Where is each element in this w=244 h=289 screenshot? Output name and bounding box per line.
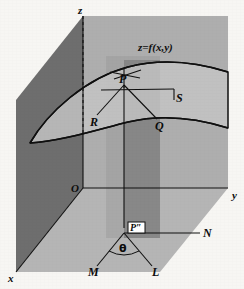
- point-label-p: P: [119, 72, 127, 86]
- point-label-l: L: [151, 265, 159, 279]
- axis-label-x: x: [7, 272, 14, 284]
- diagram-svg: z y x O z=f(x,y) P Q R S P″ M N L θ: [0, 0, 244, 289]
- point-label-s: S: [176, 91, 183, 105]
- figure-container: z y x O z=f(x,y) P Q R S P″ M N L θ: [0, 0, 244, 289]
- point-label-n: N: [202, 226, 213, 240]
- point-label-m: M: [87, 265, 99, 279]
- point-label-q: Q: [155, 119, 164, 133]
- axis-label-z: z: [77, 4, 83, 16]
- point-label-r: R: [89, 115, 98, 129]
- origin-label: O: [71, 182, 79, 194]
- point-label-p-double-prime: P″: [130, 222, 142, 233]
- angle-label-theta: θ: [119, 242, 127, 255]
- axis-label-y: y: [230, 189, 237, 201]
- surface-equation-label: z=f(x,y): [137, 41, 173, 54]
